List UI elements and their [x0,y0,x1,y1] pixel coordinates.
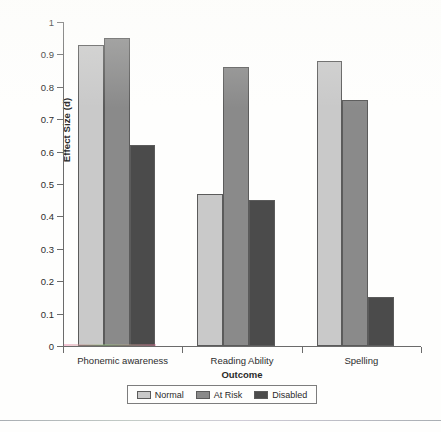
bars-layer [63,22,421,346]
legend-label: Normal [155,390,184,400]
bar-chart: Effect Size (d) 10.90.80.70.60.50.40.30.… [0,0,441,432]
y-tick-label: 0.5 [12,179,54,190]
bar-at-risk-phonemic-awareness [104,38,130,346]
x-tick-mark [63,347,64,353]
x-tick-mark [421,347,422,353]
bar-disabled-phonemic-awareness [130,145,156,346]
legend-swatch-icon [137,391,151,399]
y-tick-label: 0.1 [12,308,54,319]
legend-item-at-risk[interactable]: At Risk [196,390,243,400]
bar-at-risk-spelling [342,100,368,346]
legend-label: At Risk [214,390,243,400]
y-tick-label: 0 [12,341,54,352]
x-tick-mark [302,347,303,353]
chart-legend: NormalAt RiskDisabled [127,385,317,404]
y-tick-label: 0.9 [12,49,54,60]
y-tick-label: 0.7 [12,114,54,125]
bar-at-risk-reading-ability [223,67,249,346]
legend-item-disabled[interactable]: Disabled [254,390,307,400]
y-tick-label: 0.2 [12,276,54,287]
y-tick-label: 1 [12,17,54,28]
legend-swatch-icon [196,391,210,399]
x-axis-title: Outcome [63,369,421,380]
bar-normal-phonemic-awareness [78,45,104,346]
legend-item-normal[interactable]: Normal [137,390,184,400]
y-tick-label: 0.4 [12,211,54,222]
scan-line-artifact [0,420,441,421]
x-category-label: Spelling [301,355,421,366]
legend-swatch-icon [254,391,268,399]
y-tick-label: 0.3 [12,243,54,254]
legend-label: Disabled [272,390,307,400]
scan-color-fringe [64,344,156,346]
x-tick-mark [182,347,183,353]
x-axis-line [63,346,421,347]
bar-normal-spelling [317,61,343,346]
y-tick-label: 0.8 [12,81,54,92]
x-category-label: Phonemic awareness [63,355,183,366]
bar-disabled-reading-ability [249,200,275,346]
x-category-label: Reading Ability [182,355,302,366]
y-tick-label: 0.6 [12,146,54,157]
bar-normal-reading-ability [197,194,223,346]
bar-disabled-spelling [368,297,394,346]
